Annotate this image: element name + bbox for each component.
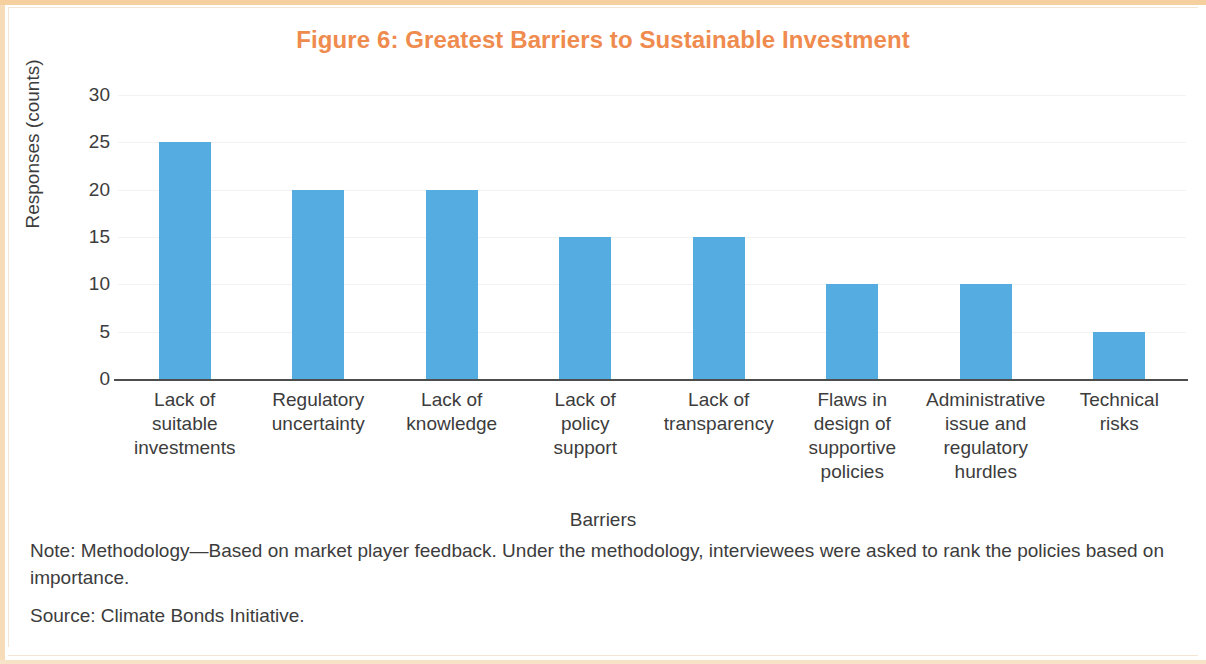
x-axis-tick-label-line: hurdles — [923, 460, 1049, 484]
x-axis-tick-label-line: investments — [122, 436, 248, 460]
chart-title: Figure 6: Greatest Barriers to Sustainab… — [0, 26, 1206, 54]
bar — [693, 237, 745, 379]
x-axis-tick-label-line: Administrative — [923, 388, 1049, 412]
x-axis-tick-label-line: Regulatory — [255, 388, 381, 412]
y-axis-tick-label: 10 — [58, 273, 110, 295]
gridline — [118, 332, 1186, 333]
x-axis-tick-label-line: Lack of — [122, 388, 248, 412]
x-axis-tick-label-line: Lack of — [389, 388, 515, 412]
x-axis-tick-label: Flaws indesign ofsupportivepolicies — [789, 388, 915, 484]
gridline — [118, 95, 1186, 96]
x-axis-tick-label-line: Lack of — [656, 388, 782, 412]
bar — [159, 142, 211, 379]
bar — [826, 284, 878, 379]
x-axis-tick-label-line: regulatory — [923, 436, 1049, 460]
bar — [559, 237, 611, 379]
x-axis-tick-label-line: knowledge — [389, 412, 515, 436]
x-axis-tick-label-line: uncertainty — [255, 412, 381, 436]
x-axis-tick-label-line: design of — [789, 412, 915, 436]
x-axis-category-labels: Lack ofsuitableinvestmentsRegulatoryunce… — [118, 388, 1186, 498]
bar — [292, 190, 344, 379]
plot-area — [118, 95, 1186, 379]
x-axis-tick-label-line: transparency — [656, 412, 782, 436]
figure-page: Figure 6: Greatest Barriers to Sustainab… — [0, 0, 1206, 664]
y-axis-label: Responses (counts) — [22, 44, 44, 244]
y-axis-tick-label: 15 — [58, 226, 110, 248]
x-axis-tick-label-line: risks — [1056, 412, 1182, 436]
x-axis-label: Barriers — [0, 509, 1206, 531]
x-axis-tick-label-line: support — [522, 436, 648, 460]
y-axis-tick-label: 5 — [58, 321, 110, 343]
bar — [426, 190, 478, 379]
x-axis-tick-label-line: policy — [522, 412, 648, 436]
gridline — [118, 190, 1186, 191]
x-axis-tick-label: Lack ofsuitableinvestments — [122, 388, 248, 460]
y-axis-tick-label: 25 — [58, 131, 110, 153]
gridline — [118, 142, 1186, 143]
x-axis-tick-label: Lack ofpolicysupport — [522, 388, 648, 460]
y-axis-tick-label: 30 — [58, 84, 110, 106]
x-axis-tick-label: Regulatoryuncertainty — [255, 388, 381, 436]
x-axis-tick-label-line: issue and — [923, 412, 1049, 436]
inner-hairline-top — [8, 7, 1198, 8]
y-axis-tick-label: 20 — [58, 179, 110, 201]
page-border-left — [0, 5, 5, 660]
bar — [1093, 332, 1145, 379]
x-axis-line — [114, 379, 1188, 381]
note-source: Source: Climate Bonds Initiative. — [30, 602, 1170, 629]
gridline — [118, 284, 1186, 285]
x-axis-tick-label: Lack oftransparency — [656, 388, 782, 436]
y-axis-ticks: 051015202530 — [50, 95, 110, 379]
inner-hairline-bottom — [8, 655, 1198, 656]
x-axis-tick-label-line: policies — [789, 460, 915, 484]
gridline — [118, 237, 1186, 238]
x-axis-tick-label-line: suitable — [122, 412, 248, 436]
x-axis-tick-label-line: Lack of — [522, 388, 648, 412]
y-axis-tick-label: 0 — [58, 368, 110, 390]
figure-notes: Note: Methodology—Based on market player… — [30, 537, 1170, 629]
bar — [960, 284, 1012, 379]
x-axis-tick-label: Administrativeissue andregulatoryhurdles — [923, 388, 1049, 484]
note-methodology: Note: Methodology—Based on market player… — [30, 537, 1170, 591]
x-axis-tick-label-line: Technical — [1056, 388, 1182, 412]
page-border-bottom — [0, 660, 1206, 664]
page-border-top — [0, 0, 1206, 5]
x-axis-tick-label-line: Flaws in — [789, 388, 915, 412]
x-axis-tick-label-line: supportive — [789, 436, 915, 460]
x-axis-tick-label: Technicalrisks — [1056, 388, 1182, 436]
inner-hairline-left — [8, 7, 9, 647]
x-axis-tick-label: Lack ofknowledge — [389, 388, 515, 436]
